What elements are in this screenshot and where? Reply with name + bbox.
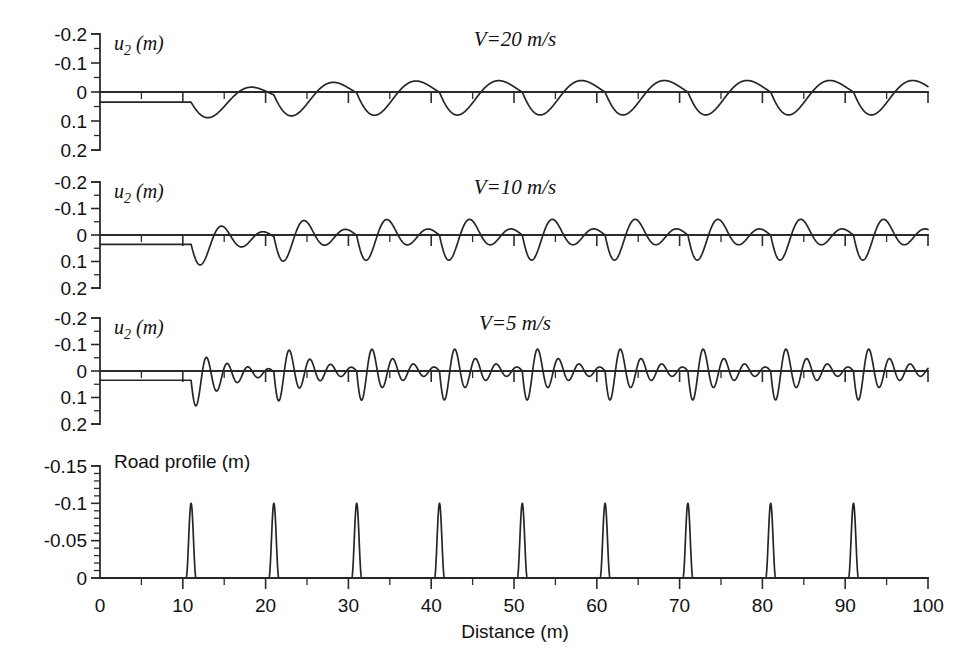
y-tick-label: 0.2	[61, 278, 87, 299]
panel-response-v10: -0.2-0.100.10.2u2 (m)V=10 m/s	[54, 172, 928, 299]
y-tick-label: 0	[76, 361, 87, 382]
y-tick-label: 0	[76, 82, 87, 103]
x-tick-label: 10	[172, 595, 193, 616]
x-tick-label: 70	[669, 595, 690, 616]
y-tick-label: -0.1	[54, 198, 87, 219]
y-axis-label: u2 (m)	[114, 32, 164, 58]
x-tick-label: 80	[752, 595, 773, 616]
panel-road-profile: -0.15-0.1-0.050Road profile (m)	[44, 451, 928, 589]
y-tick-label: 0.2	[61, 140, 87, 161]
data-curve	[100, 503, 928, 578]
panel-response-v20: -0.2-0.100.10.2u2 (m)V=20 m/s	[54, 24, 928, 161]
x-axis-title: Distance (m)	[461, 621, 569, 642]
y-tick-label: 0.1	[61, 387, 87, 408]
y-tick-label: 0.1	[61, 251, 87, 272]
y-tick-label: -0.2	[54, 172, 87, 193]
y-axis-label: u2 (m)	[114, 316, 164, 342]
y-tick-label: -0.05	[44, 530, 87, 551]
y-tick-label: -0.1	[54, 53, 87, 74]
y-axis-label: Road profile (m)	[114, 451, 250, 472]
y-tick-label: -0.2	[54, 308, 87, 329]
panel-response-v5: -0.2-0.100.10.2u2 (m)V=5 m/s	[54, 308, 928, 435]
panel-title: V=20 m/s	[474, 27, 556, 51]
x-tick-label: 0	[95, 595, 106, 616]
vehicle-response-figure: -0.2-0.100.10.2u2 (m)V=20 m/s-0.2-0.100.…	[0, 0, 971, 668]
x-tick-label: 60	[586, 595, 607, 616]
x-axis-labels: 0102030405060708090100Distance (m)	[95, 595, 944, 642]
y-tick-label: 0	[76, 568, 87, 589]
x-tick-label: 90	[835, 595, 856, 616]
x-tick-label: 50	[503, 595, 524, 616]
x-tick-label: 30	[338, 595, 359, 616]
y-tick-label: -0.1	[54, 334, 87, 355]
y-tick-label: 0.1	[61, 111, 87, 132]
y-tick-label: 0	[76, 225, 87, 246]
x-tick-label: 40	[421, 595, 442, 616]
y-axis-label: u2 (m)	[114, 180, 164, 206]
x-tick-label: 20	[255, 595, 276, 616]
y-tick-label: -0.1	[54, 493, 87, 514]
y-tick-label: -0.15	[44, 456, 87, 477]
panel-title: V=10 m/s	[474, 175, 556, 199]
x-tick-label: 100	[912, 595, 944, 616]
y-tick-label: -0.2	[54, 24, 87, 45]
panel-title: V=5 m/s	[479, 311, 551, 335]
y-tick-label: 0.2	[61, 414, 87, 435]
